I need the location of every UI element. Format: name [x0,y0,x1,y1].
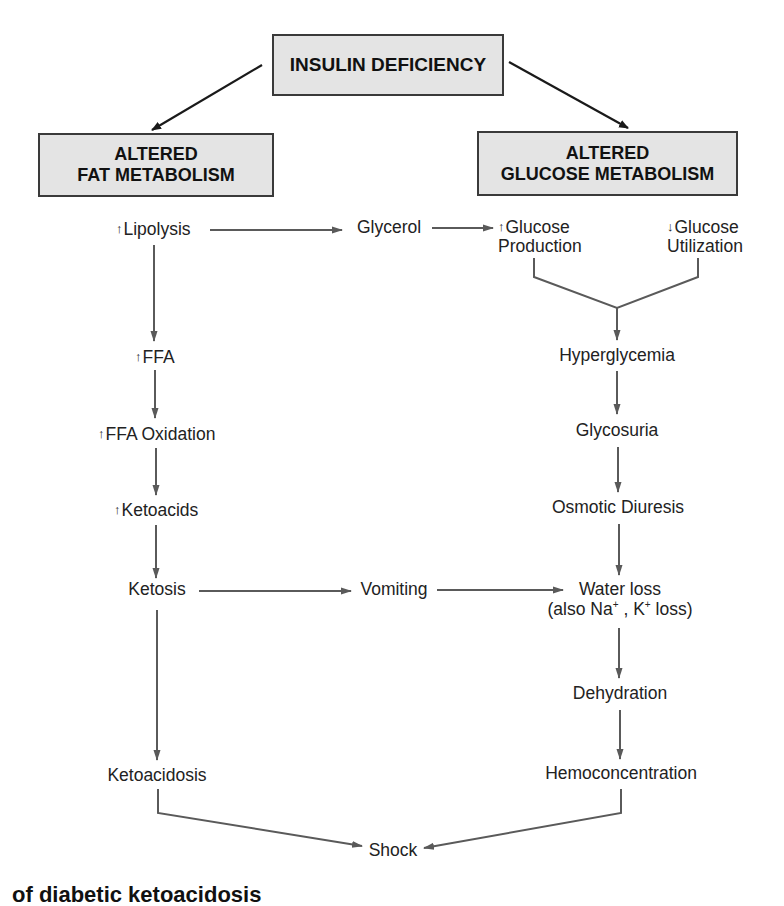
node-hyperglycemia: Hyperglycemia [559,346,675,365]
increase-arrow-icon: ↑ [116,221,123,236]
insulin-deficiency-label: INSULIN DEFICIENCY [290,54,486,76]
node-glycosuria: Glycosuria [576,421,659,440]
figure-caption-partial: of diabetic ketoacidosis [12,882,261,906]
fat-box-line1: ALTERED [114,144,198,165]
altered-fat-metabolism-box: ALTERED FAT METABOLISM [38,133,274,197]
node-ketosis: Ketosis [128,580,185,599]
insulin-deficiency-box: INSULIN DEFICIENCY [272,34,504,96]
node-glycerol: Glycerol [357,218,421,237]
increase-arrow-icon: ↑ [98,426,105,441]
arrow-insulin-to-fat [152,65,262,130]
node-ffa: ↑FFA [135,348,175,367]
glucose-box-line1: ALTERED [566,143,650,164]
increase-arrow-icon: ↑ [114,502,121,517]
node-ketoacidosis: Ketoacidosis [107,766,206,785]
arrow-insulin-to-glucose [509,62,628,128]
altered-glucose-metabolism-box: ALTERED GLUCOSE METABOLISM [477,131,738,196]
fat-box-line2: FAT METABOLISM [77,165,234,186]
glucose-box-line2: GLUCOSE METABOLISM [501,164,715,185]
node-water-loss: Water loss (also Na+ , K+ loss) [548,580,693,619]
node-hemoconcentration: Hemoconcentration [545,764,697,783]
node-ffa-oxidation: ↑FFA Oxidation [98,425,215,444]
arrow-hemoconcentration-to-shock [424,789,621,848]
increase-arrow-icon: ↑ [135,349,142,364]
node-glucose-utilization: ↓Glucose Utilization [667,218,743,257]
merge-glucose-production-utilization [534,258,698,308]
node-dehydration: Dehydration [573,684,667,703]
node-osmotic-diuresis: Osmotic Diuresis [552,498,684,517]
arrow-ketoacidosis-to-shock [158,789,362,846]
node-shock: Shock [369,841,418,860]
node-lipolysis: ↑Lipolysis [116,220,191,239]
increase-arrow-icon: ↑ [498,219,505,234]
node-ketoacids: ↑Ketoacids [114,501,198,520]
node-vomiting: Vomiting [360,580,427,599]
node-glucose-production: ↑Glucose Production [498,218,582,257]
decrease-arrow-icon: ↓ [667,219,674,234]
